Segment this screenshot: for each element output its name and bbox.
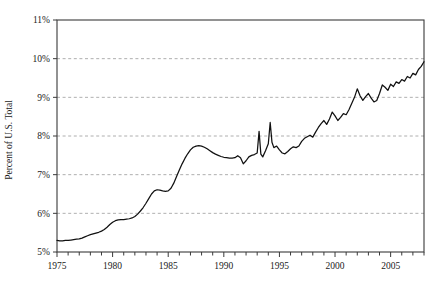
line-chart: 5%6%7%8%9%10%11% 19751980198519901995200… — [0, 0, 440, 281]
y-tick-label: 10% — [33, 54, 51, 64]
chart-page: 5%6%7%8%9%10%11% 19751980198519901995200… — [0, 0, 440, 281]
x-tick-label: 1985 — [159, 261, 178, 271]
y-tick-label: 7% — [37, 170, 50, 180]
grid-lines — [57, 59, 424, 214]
y-tick-label: 8% — [37, 131, 50, 141]
data-series-line — [57, 62, 424, 241]
x-tick-label: 2000 — [326, 261, 345, 271]
x-tick-label: 2005 — [381, 261, 400, 271]
y-axis-ticks — [53, 20, 57, 252]
x-axis-tick-labels: 1975198019851990199520002005 — [48, 261, 401, 271]
y-tick-label: 5% — [37, 247, 50, 257]
x-tick-label: 1980 — [103, 261, 122, 271]
x-tick-label: 1975 — [48, 261, 67, 271]
y-tick-label: 11% — [33, 15, 50, 25]
x-tick-label: 1990 — [214, 261, 233, 271]
x-tick-label: 1995 — [270, 261, 289, 271]
plot-frame — [57, 20, 424, 252]
x-axis-ticks — [57, 252, 424, 257]
y-axis-tick-labels: 5%6%7%8%9%10%11% — [33, 15, 51, 257]
y-tick-label: 9% — [37, 93, 50, 103]
y-axis-title: Percent of U.S. Total — [4, 100, 14, 180]
y-tick-label: 6% — [37, 209, 50, 219]
